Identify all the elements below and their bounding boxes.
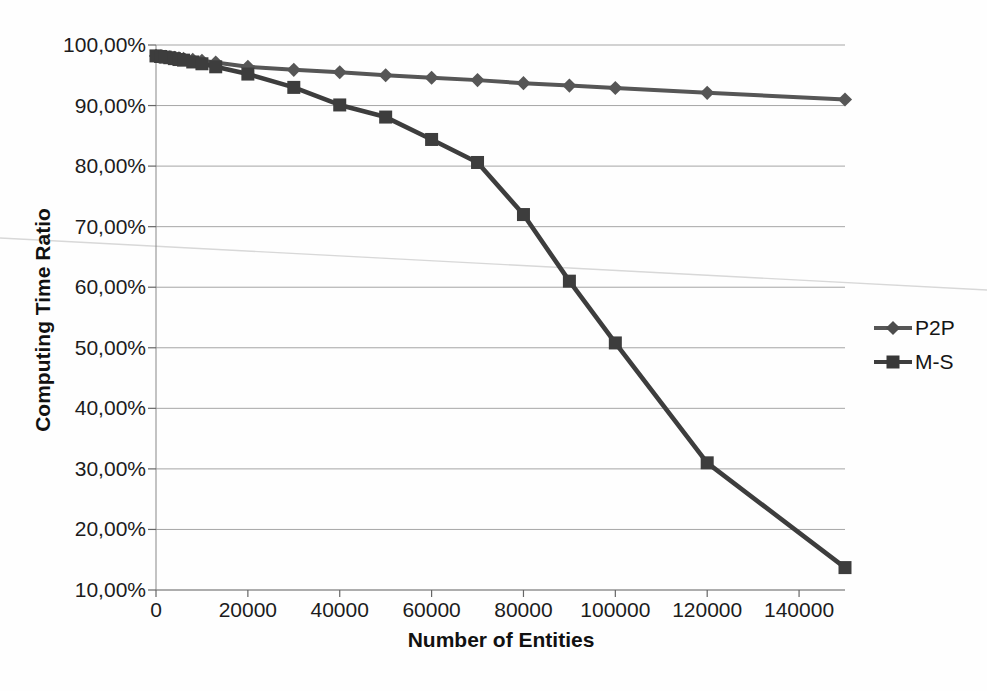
p2p-diamond-marker-icon: [873, 319, 913, 337]
ms-data-point-marker: [333, 98, 346, 111]
ms-data-point-marker: [195, 57, 208, 70]
ms-data-point-marker: [609, 336, 622, 349]
ms-data-point-marker: [425, 133, 438, 146]
y-tick-label: 40,00%: [75, 396, 146, 419]
p2p-data-point-marker: [333, 65, 347, 79]
p2p-data-point-marker: [562, 79, 576, 93]
ms-data-point-marker: [839, 561, 852, 574]
ms-data-point-marker: [379, 111, 392, 124]
y-tick-label: 90,00%: [75, 94, 146, 117]
computing-time-ratio-line-chart: 100,00%90,00%80,00%70,00%60,00%50,00%40,…: [0, 0, 987, 691]
ms-data-point-marker: [471, 156, 484, 169]
x-tick-label: 80000: [494, 598, 552, 621]
y-axis-title: Computing Time Ratio: [31, 208, 55, 432]
y-tick-label: 10,00%: [75, 578, 146, 601]
ms-data-point-marker: [287, 81, 300, 94]
ms-data-point-marker: [563, 275, 576, 288]
y-tick-label: 80,00%: [75, 154, 146, 177]
x-tick-label: 100000: [580, 598, 650, 621]
p2p-data-point-marker: [470, 73, 484, 87]
p2p-data-point-marker: [608, 81, 622, 95]
y-tick-label: 100,00%: [63, 33, 146, 56]
p2p-data-point-marker: [287, 63, 301, 77]
y-tick-label: 30,00%: [75, 457, 146, 480]
scan-artifact-line: [0, 238, 987, 290]
p2p-data-point-marker: [379, 68, 393, 82]
legend-label-ms: M-S: [915, 351, 954, 372]
p2p-data-point-marker: [838, 92, 852, 106]
x-tick-label: 0: [150, 598, 162, 621]
x-tick-label: 40000: [311, 598, 369, 621]
ms-data-point-marker: [209, 60, 222, 73]
p2p-data-point-marker: [425, 71, 439, 85]
legend-label-p2p: P2P: [915, 317, 955, 338]
x-tick-label: 20000: [219, 598, 277, 621]
x-axis-title: Number of Entities: [408, 628, 595, 652]
ms-data-point-marker: [701, 456, 714, 469]
ms-square-marker-icon: [873, 353, 913, 371]
chart-legend: P2P M-S: [873, 312, 955, 377]
ms-series-line: [156, 56, 845, 568]
p2p-data-point-marker: [700, 86, 714, 100]
y-tick-label: 70,00%: [75, 215, 146, 238]
ms-data-point-marker: [517, 208, 530, 221]
x-tick-label: 60000: [402, 598, 460, 621]
legend-item-p2p: P2P: [873, 312, 955, 343]
x-tick-label: 140000: [764, 598, 834, 621]
ms-data-point-marker: [241, 68, 254, 81]
p2p-data-point-marker: [516, 76, 530, 90]
y-tick-label: 20,00%: [75, 517, 146, 540]
legend-item-ms: M-S: [873, 346, 955, 377]
scanned-chart-figure: 100,00%90,00%80,00%70,00%60,00%50,00%40,…: [0, 0, 987, 691]
y-tick-label: 60,00%: [75, 275, 146, 298]
x-tick-label: 120000: [672, 598, 742, 621]
y-tick-label: 50,00%: [75, 336, 146, 359]
